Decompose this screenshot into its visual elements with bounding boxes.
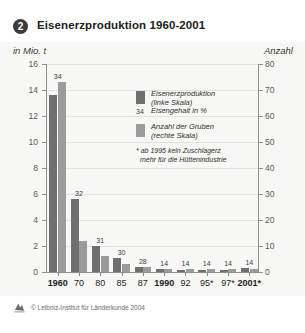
x-axis-tick [122,272,123,276]
right-axis-tick [258,142,263,143]
left-axis-tick [42,90,46,91]
bar-production [177,270,185,272]
right-axis-tick-label: 80 [265,59,295,69]
right-axis-unit-label: Anzahl [264,45,293,56]
bar-mines [79,241,87,272]
left-axis-tick-label: 4 [8,215,38,225]
legend-item-production: Eisenerzproduktion (linke Skala) [136,90,266,104]
bar-value-label: 14 [237,259,261,266]
bar-mines [207,269,215,272]
right-axis-tick [258,272,263,273]
left-axis-unit-label: in Mio. t [13,45,46,56]
chart-figure: 2 Eisenerzproduktion 1960-2001 in Mio. t… [0,0,305,333]
left-axis-tick [42,220,46,221]
x-axis-tick [249,272,250,276]
legend-swatch-production-icon [136,91,145,104]
bar-production [92,246,100,272]
legend-label-iron-content: Eisengehalt in % [151,107,207,116]
legend-swatch-mines-icon [136,124,145,137]
legend-item-iron-content: 34 Eisengehalt in % [136,107,266,118]
right-axis-tick-label: 40 [265,163,295,173]
left-axis-tick-label: 2 [8,241,38,251]
left-axis-tick [42,168,46,169]
chart-number-badge: 2 [13,19,28,34]
x-axis-tick [143,272,144,276]
legend-item-mines: Anzahl der Gruben (rechte Skala) [136,123,266,137]
right-axis-tick [258,220,263,221]
bar-mines [228,269,236,272]
x-axis [46,272,259,273]
bar-value-label: 34 [46,73,70,80]
right-axis-tick-label: 60 [265,111,295,121]
legend-label-production: Eisenerzproduktion (linke Skala) [151,90,215,107]
left-axis-tick-label: 6 [8,189,38,199]
bar-production [49,95,57,272]
x-axis-tick [164,272,165,276]
bar-mines [122,264,130,272]
x-axis-label: 2001* [233,278,265,288]
bar-production [113,258,121,272]
left-axis-tick [42,116,46,117]
x-axis-tick [207,272,208,276]
legend-sample-value: 34 [136,108,144,115]
right-axis-tick-label: 20 [265,215,295,225]
gridline [46,64,259,65]
chart-footer: © Leibniz-Institut für Länderkunde 2004 [0,296,305,333]
right-axis-tick-label: 30 [265,189,295,199]
copyright-text: © Leibniz-Institut für Länderkunde 2004 [31,304,145,311]
bar-production [198,270,206,272]
right-axis-tick-label: 10 [265,241,295,251]
chart-legend: Eisenerzproduktion (linke Skala) 34 Eise… [136,90,266,140]
bar-production [71,199,79,272]
bar-value-label: 30 [110,249,134,256]
legend-label-mines: Anzahl der Gruben (rechte Skala) [151,123,214,140]
bar-value-label: 31 [88,237,112,244]
left-axis-tick-label: 0 [8,267,38,277]
left-axis-tick [42,142,46,143]
x-axis-tick [79,272,80,276]
bar-value-label: 32 [67,190,91,197]
right-axis-tick-label: 0 [265,267,295,277]
right-axis-tick [258,64,263,65]
right-axis-tick [258,168,263,169]
right-axis-tick [258,194,263,195]
left-axis-tick [42,194,46,195]
right-axis-tick-label: 70 [265,85,295,95]
chart-footnote: * ab 1995 kein Zuschlagerz mehr für die … [136,146,276,164]
bar-mines [101,256,109,272]
x-axis-tick [58,272,59,276]
gridline [46,168,259,169]
x-axis-tick [228,272,229,276]
bar-mines [186,269,194,272]
left-axis-tick-label: 14 [8,85,38,95]
left-axis-tick-label: 8 [8,163,38,173]
left-axis-tick-label: 10 [8,137,38,147]
bar-production [135,267,143,272]
left-axis [46,64,47,273]
left-axis-tick-label: 16 [8,59,38,69]
page-title: Eisenerzproduktion 1960-2001 [37,19,205,31]
left-axis-tick [42,272,46,273]
chart-header: 2 Eisenerzproduktion 1960-2001 [0,0,305,42]
left-axis-tick [42,64,46,65]
x-axis-tick [185,272,186,276]
bar-production [220,270,228,272]
bar-mines [58,82,66,272]
bar-mines [164,269,172,272]
bar-production [156,269,164,272]
bar-production [241,268,249,272]
right-axis-tick [258,246,263,247]
x-axis-tick [100,272,101,276]
gridline [46,142,259,143]
right-axis-tick-label: 50 [265,137,295,147]
bar-mines [250,269,258,272]
bar-mines [143,267,151,272]
left-axis-tick [42,246,46,247]
institute-logo-icon [13,301,26,314]
left-axis-tick-label: 12 [8,111,38,121]
